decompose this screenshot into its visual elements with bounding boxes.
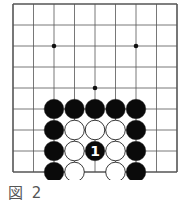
move-number: 1 [90, 143, 100, 159]
black-stone [85, 99, 105, 119]
black-stone [126, 162, 146, 180]
star-point [93, 86, 98, 91]
black-stone [65, 99, 85, 119]
black-stone [106, 99, 126, 119]
black-stone [44, 120, 64, 140]
white-stone [106, 141, 126, 161]
figure-caption: 図 2 [8, 181, 43, 202]
black-stone [126, 99, 146, 119]
black-stone [126, 120, 146, 140]
white-stone [85, 120, 105, 140]
white-stone [106, 120, 126, 140]
white-stone [65, 141, 85, 161]
black-stone [44, 99, 64, 119]
white-stone [65, 120, 85, 140]
black-stone: 1 [85, 141, 105, 161]
black-stone [44, 162, 64, 180]
go-board: 1 [0, 0, 189, 180]
white-stone [106, 162, 126, 180]
black-stone [44, 141, 64, 161]
star-point [52, 44, 57, 49]
white-stone [65, 162, 85, 180]
star-point [134, 44, 139, 49]
black-stone [126, 141, 146, 161]
